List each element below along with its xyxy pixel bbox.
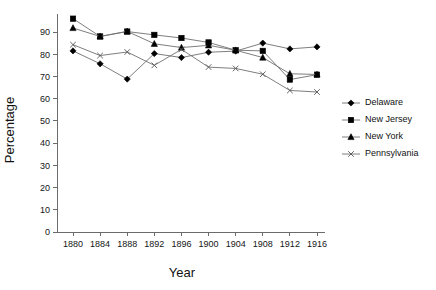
data-point-diamond (314, 44, 320, 50)
series-layer (70, 16, 320, 95)
y-tick-label: 30 (40, 161, 50, 171)
y-tick-label: 90 (40, 27, 50, 37)
x-tick-label: 1904 (226, 239, 246, 249)
x-axis: 1880188418881892189619001904190819121916 (57, 232, 327, 249)
x-tick-label: 1888 (117, 239, 137, 249)
y-tick-label: 70 (40, 72, 50, 82)
data-point-triangle (70, 25, 76, 31)
data-point-square (70, 16, 75, 21)
series-line (73, 28, 317, 74)
x-tick-label: 1896 (171, 239, 191, 249)
y-tick-label: 60 (40, 94, 50, 104)
y-tick-label: 10 (40, 205, 50, 215)
data-point-square (260, 48, 265, 53)
data-point-diamond (178, 54, 184, 60)
data-point-diamond (260, 40, 266, 46)
legend-label: New Jersey (365, 114, 413, 124)
data-point-triangle (151, 40, 157, 46)
legend-item-new-jersey[interactable]: New Jersey (342, 114, 413, 124)
legend-label: Delaware (365, 97, 403, 107)
x-tick-label: 1908 (253, 239, 273, 249)
data-point-diamond (70, 48, 76, 54)
legend-label: Pennsylvania (365, 148, 419, 158)
x-tick-label: 1916 (307, 239, 327, 249)
series-line (73, 43, 317, 79)
data-point-square (287, 77, 292, 82)
x-tick-label: 1884 (90, 239, 110, 249)
y-axis: 0102030405060708090 (40, 14, 57, 237)
data-point-diamond (205, 49, 211, 55)
data-point-diamond (348, 100, 354, 106)
data-point-cross (70, 42, 76, 48)
chart-legend: DelawareNew JerseyNew YorkPennsylvania (342, 97, 419, 158)
data-point-square (179, 35, 184, 40)
series-line (73, 19, 317, 80)
y-tick-label: 40 (40, 138, 50, 148)
x-tick-label: 1892 (144, 239, 164, 249)
data-point-square (348, 117, 353, 122)
x-tick-label: 1880 (63, 239, 83, 249)
x-axis-title: Year (169, 265, 196, 280)
y-axis-title: Percentage (2, 97, 17, 164)
data-point-diamond (97, 61, 103, 67)
legend-item-delaware[interactable]: Delaware (342, 97, 403, 107)
chart-container: 0102030405060708090 18801884188818921896… (0, 0, 436, 290)
line-chart: 0102030405060708090 18801884188818921896… (0, 0, 436, 290)
y-tick-label: 20 (40, 183, 50, 193)
y-tick-label: 80 (40, 50, 50, 60)
data-point-cross (152, 63, 158, 69)
series-new-jersey (70, 16, 319, 82)
y-tick-label: 0 (45, 227, 50, 237)
x-tick-label: 1912 (280, 239, 300, 249)
series-new-york (70, 25, 320, 77)
data-point-diamond (287, 46, 293, 52)
legend-label: New York (365, 131, 404, 141)
y-tick-label: 50 (40, 116, 50, 126)
legend-item-pennsylvania[interactable]: Pennsylvania (342, 148, 419, 158)
data-point-square (152, 32, 157, 37)
x-tick-label: 1900 (199, 239, 219, 249)
legend-item-new-york[interactable]: New York (342, 131, 404, 141)
